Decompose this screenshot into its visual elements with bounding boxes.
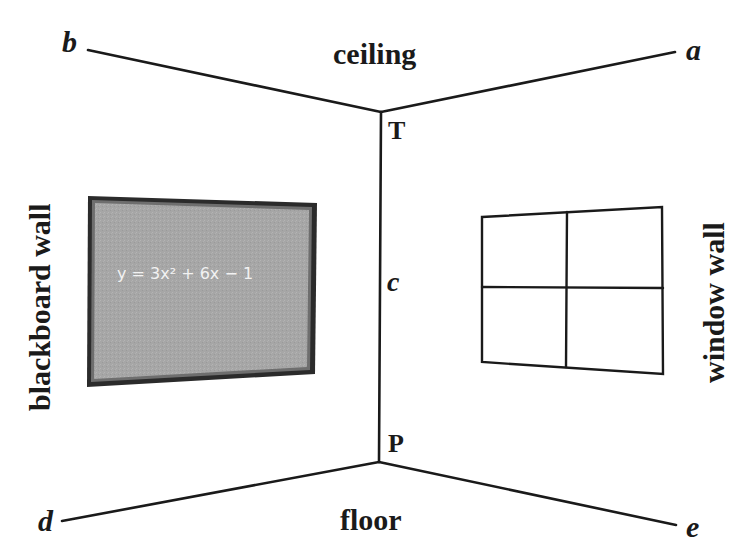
window-mullion-vertical	[566, 212, 567, 367]
edge-T-to-a	[381, 52, 675, 112]
label-point-a: a	[686, 33, 701, 66]
label-blackboard-wall: blackboard wall	[23, 203, 56, 411]
label-point-P: P	[388, 429, 404, 458]
window	[482, 207, 663, 374]
label-point-c: c	[387, 266, 400, 297]
blackboard: y = 3x² + 6x − 1	[87, 196, 317, 387]
window-frame	[482, 207, 663, 374]
label-window-wall: window wall	[697, 222, 730, 383]
label-floor: floor	[340, 503, 402, 536]
label-ceiling: ceiling	[333, 37, 416, 70]
edge-T-to-P-vertical-c	[379, 112, 381, 462]
label-point-d: d	[38, 504, 54, 537]
edge-d-to-P	[62, 462, 379, 521]
label-point-b: b	[62, 25, 77, 58]
classroom-corner-diagram: y = 3x² + 6x − 1 ceiling floor blackboar…	[0, 0, 734, 560]
blackboard-equation: y = 3x² + 6x − 1	[117, 264, 253, 283]
label-point-e: e	[686, 510, 699, 543]
window-mullion-horizontal	[482, 287, 663, 288]
edge-P-to-e	[379, 462, 676, 525]
blackboard-surface	[94, 203, 309, 379]
label-point-T: T	[388, 116, 405, 145]
